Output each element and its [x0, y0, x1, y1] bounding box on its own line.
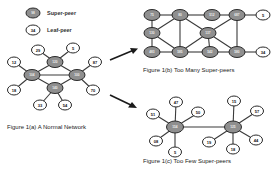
- svg-text:12: 12: [12, 60, 17, 65]
- legend-leaf-text: Leaf-peer: [47, 27, 73, 33]
- svg-text:54: 54: [63, 103, 68, 108]
- leaf-peer-node: 5: [169, 147, 182, 157]
- super-peer-node: 580: [229, 47, 245, 58]
- svg-text:100: 100: [74, 73, 80, 77]
- svg-text:15: 15: [232, 99, 237, 104]
- leaf-peer-node: 5: [67, 43, 80, 53]
- figure-1b-caption: Figure 1(b) Too Many Super-peers: [143, 67, 235, 73]
- svg-text:542: 542: [207, 50, 213, 54]
- leaf-peer-node: 70: [87, 85, 100, 95]
- figure-1c-too-few-super-peers: 154 125 47 51 50 08 5 15 57 19 44 18 Fig…: [143, 96, 264, 164]
- leaf-peer-node: 18: [8, 85, 21, 95]
- legend-leaf-peer: 34 Leaf-peer: [26, 25, 73, 35]
- super-peer-node: 154: [167, 121, 184, 133]
- svg-text:120: 120: [52, 60, 58, 64]
- svg-text:18: 18: [12, 88, 17, 93]
- leaf-peer-node: 50: [192, 107, 205, 117]
- legend-leaf-symbol-label: 34: [31, 28, 36, 33]
- leaf-peer-node: 34: [256, 47, 270, 57]
- leaf-peer-node: 18: [227, 144, 240, 154]
- svg-text:47: 47: [174, 100, 179, 105]
- svg-text:34: 34: [261, 50, 266, 55]
- leaf-peer-node: 5: [256, 10, 270, 20]
- leaf-peer-node: 54: [59, 100, 72, 110]
- super-peer-node: 512: [204, 10, 220, 21]
- legend: 98 Super-peer 34 Leaf-peer: [26, 8, 77, 35]
- svg-text:125: 125: [230, 125, 236, 129]
- svg-text:130: 130: [149, 31, 155, 35]
- super-peer-node: 585: [172, 47, 188, 58]
- arrow-to-figure-1c: [110, 95, 137, 108]
- leaf-peer-node: 57: [251, 106, 264, 116]
- super-peer-node: 687: [229, 10, 245, 21]
- super-peer-node: 483: [144, 47, 160, 58]
- svg-text:687: 687: [234, 13, 240, 17]
- svg-text:75: 75: [150, 13, 154, 17]
- legend-super-peer: 98 Super-peer: [26, 8, 77, 18]
- leaf-peer-node: 87: [89, 57, 102, 67]
- svg-text:87: 87: [93, 60, 98, 65]
- svg-text:512: 512: [209, 13, 215, 17]
- super-peer-node: 130: [144, 28, 160, 39]
- arrow-to-figure-1b: [110, 48, 138, 60]
- figure-1a-normal-network: 120 104 100 140 29 5 12 87: [7, 43, 102, 130]
- super-peer-node: 80: [172, 10, 188, 21]
- super-peer-node: 75: [144, 10, 160, 21]
- svg-text:70: 70: [91, 88, 96, 93]
- svg-text:19: 19: [207, 140, 212, 145]
- svg-text:585: 585: [177, 50, 183, 54]
- svg-text:08: 08: [154, 139, 159, 144]
- svg-text:580: 580: [234, 50, 240, 54]
- leaf-peer-node: 47: [170, 97, 183, 107]
- super-peer-node: 120: [47, 57, 63, 68]
- legend-super-text: Super-peer: [47, 10, 77, 16]
- network-diagram: 98 Super-peer 34 Leaf-peer 120 10: [0, 0, 279, 169]
- super-peer-node: 104: [24, 70, 40, 81]
- leaf-peer-node: 33: [34, 100, 47, 110]
- svg-text:18: 18: [231, 147, 236, 152]
- leaf-peer-node: 29: [32, 45, 45, 55]
- svg-text:51: 51: [151, 112, 156, 117]
- svg-text:483: 483: [149, 50, 155, 54]
- figure-1c-caption: Figure 1(c) Too Few Super-peers: [143, 158, 231, 164]
- svg-text:104: 104: [29, 73, 35, 77]
- leaf-peer-node: 44: [250, 135, 263, 145]
- figure-1b-too-many-super-peers: 75 80 512 687 130 137 483 585 542 580 5 …: [143, 10, 270, 74]
- leaf-peer-node: 19: [203, 137, 216, 147]
- figure-1a-caption: Figure 1(a) A Normal Network: [7, 124, 87, 130]
- super-peer-node: 100: [69, 70, 85, 81]
- leaf-peer-node: 51: [147, 109, 160, 119]
- legend-super-symbol-label: 98: [31, 11, 35, 15]
- svg-text:29: 29: [36, 48, 41, 53]
- super-peer-node: 542: [202, 47, 218, 58]
- svg-text:44: 44: [254, 138, 259, 143]
- svg-text:80: 80: [178, 13, 182, 17]
- super-peer-node: 137: [200, 28, 216, 39]
- svg-text:154: 154: [172, 125, 178, 129]
- svg-text:33: 33: [38, 103, 43, 108]
- leaf-peer-node: 08: [150, 136, 163, 146]
- super-peer-node: 140: [47, 83, 63, 94]
- svg-text:137: 137: [205, 31, 211, 35]
- leaf-peer-node: 15: [228, 96, 241, 106]
- leaf-peer-node: 12: [8, 57, 21, 67]
- svg-text:140: 140: [52, 86, 58, 90]
- svg-text:57: 57: [255, 109, 260, 114]
- super-peer-node: 125: [225, 121, 242, 133]
- svg-text:50: 50: [196, 110, 201, 115]
